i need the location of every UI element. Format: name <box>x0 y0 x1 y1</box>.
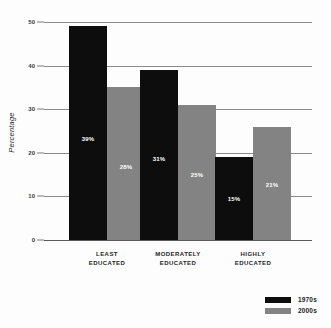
y-tick-mark <box>37 152 44 153</box>
y-tick-label: 40 <box>28 63 35 69</box>
y-tick-mark <box>37 22 44 23</box>
legend-item: 2000s <box>265 307 317 314</box>
y-tick-mark <box>37 240 44 241</box>
x-axis-labels: LEASTEDUCATEDMODERATELYEDUCATEDHIGHLYEDU… <box>44 250 312 280</box>
legend-swatch <box>265 308 291 314</box>
bar-value-label: 39% <box>69 136 107 142</box>
x-axis-category-label: HIGHLYEDUCATED <box>203 250 303 268</box>
bar: 15% <box>215 157 253 240</box>
legend-label: 2000s <box>298 307 317 314</box>
y-tick-label: 10 <box>28 193 35 199</box>
bar-group: 39%28% <box>69 22 145 240</box>
y-axis-title: Percentage <box>7 98 16 168</box>
bar-value-label: 31% <box>140 156 178 162</box>
y-tick-mark <box>37 196 44 197</box>
bar-group: 15%21% <box>215 22 291 240</box>
y-tick-mark <box>37 65 44 66</box>
y-tick-mark <box>37 109 44 110</box>
legend-label: 1970s <box>298 296 317 303</box>
legend-item: 1970s <box>265 296 317 303</box>
bar-value-label: 21% <box>253 182 291 188</box>
bar: 39% <box>69 26 107 240</box>
bars-layer: 39%28%31%25%15%21% <box>44 22 312 240</box>
legend: 1970s2000s <box>265 296 317 314</box>
plot-area: 01020304050 39%28%31%25%15%21% <box>44 22 312 240</box>
bar: 21% <box>253 127 291 240</box>
bar-chart: Percentage 01020304050 39%28%31%25%15%21… <box>0 0 331 328</box>
y-tick-label: 50 <box>28 19 35 25</box>
bar-group: 31%25% <box>140 22 216 240</box>
bar-value-label: 15% <box>215 196 253 202</box>
y-tick-label: 0 <box>32 237 35 243</box>
axis-baseline: 0 <box>44 240 312 241</box>
bar-value-label: 25% <box>178 172 216 178</box>
y-tick-label: 30 <box>28 106 35 112</box>
legend-swatch <box>265 297 291 303</box>
bar: 25% <box>178 105 216 240</box>
y-tick-label: 20 <box>28 150 35 156</box>
bar: 31% <box>140 70 178 240</box>
